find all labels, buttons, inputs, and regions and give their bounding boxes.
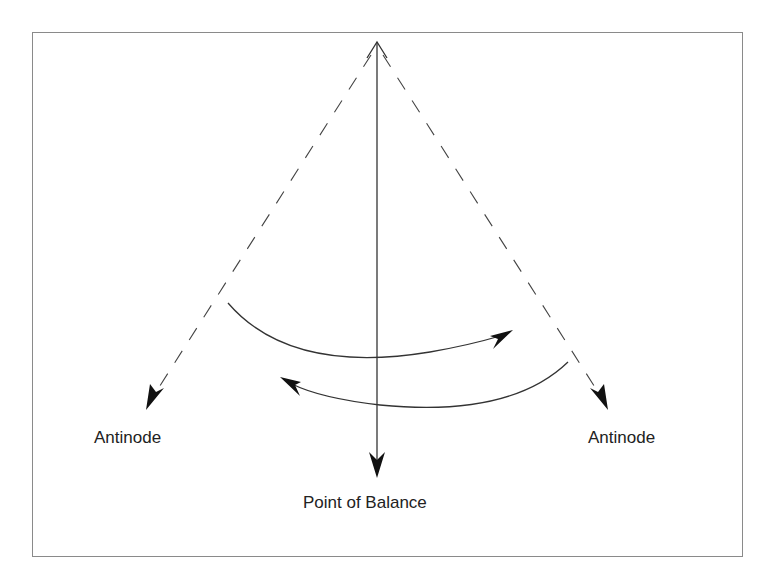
arrow-down-right-icon bbox=[590, 384, 608, 410]
right-antinode-label: Antinode bbox=[588, 428, 655, 448]
left-antinode-label: Antinode bbox=[94, 428, 161, 448]
right-swing-limit bbox=[383, 55, 608, 410]
arc-left-to-right bbox=[228, 303, 513, 358]
arrow-right-icon bbox=[490, 330, 513, 349]
arc-right-to-left bbox=[280, 362, 568, 407]
point-of-balance-label: Point of Balance bbox=[303, 493, 427, 513]
center-axis bbox=[367, 42, 387, 478]
left-swing-limit bbox=[146, 55, 371, 410]
arrow-down-left-icon bbox=[146, 384, 164, 410]
